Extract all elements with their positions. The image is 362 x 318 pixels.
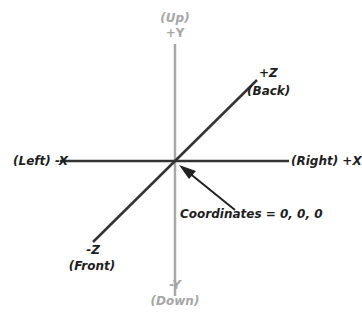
origin-annotation: Coordinates = 0, 0, 0: [180, 207, 323, 221]
z-pos-label: +Z: [259, 66, 278, 80]
y-neg-label: -Y: [169, 278, 181, 292]
y-pos-name: (Up): [160, 11, 189, 25]
y-pos-label: +Y: [166, 26, 185, 40]
z-neg-name: (Front): [69, 259, 115, 273]
z-pos-name: (Back): [247, 84, 290, 98]
origin-arrow-shaft: [188, 172, 235, 210]
y-neg-name: (Down): [151, 294, 200, 308]
x-pos-label: (Right) +X: [291, 154, 362, 168]
x-neg-label: (Left) -X: [13, 154, 68, 168]
z-neg-label: -Z: [86, 243, 100, 257]
